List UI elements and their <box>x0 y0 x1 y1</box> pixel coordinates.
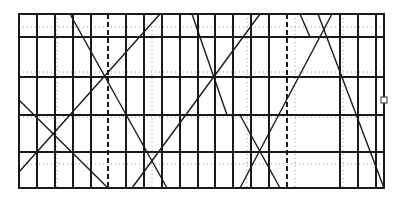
diagonal-line <box>19 100 108 188</box>
solid-vertical-lines <box>37 14 376 188</box>
diagonal-line <box>318 14 384 188</box>
resize-handle[interactable] <box>381 97 387 103</box>
diagonal-line <box>300 14 310 37</box>
grid-diagram <box>0 0 400 205</box>
diagonal-line <box>132 14 260 188</box>
diagonal-line <box>70 14 167 188</box>
dotted-vertical-guides <box>57 14 343 188</box>
